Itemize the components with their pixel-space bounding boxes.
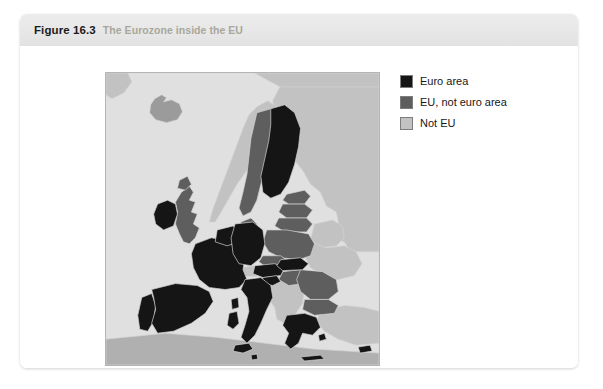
region-ireland	[154, 200, 178, 230]
figure-header: Figure 16.3 The Eurozone inside the EU	[20, 14, 578, 46]
legend-item-not-eu: Not EU	[400, 116, 565, 131]
legend-label-eu-not-euro: EU, not euro area	[420, 96, 507, 109]
map-legend: Euro area EU, not euro area Not EU	[400, 74, 565, 137]
legend-swatch-eu-not-euro	[400, 96, 413, 109]
legend-label-euro-area: Euro area	[420, 75, 468, 88]
legend-item-euro-area: Euro area	[400, 74, 565, 89]
region-malta	[251, 354, 258, 360]
region-latvia	[279, 204, 313, 218]
legend-swatch-euro-area	[400, 75, 413, 88]
europe-map-svg	[106, 73, 379, 365]
region-corsica	[231, 297, 239, 309]
figure-caption: The Eurozone inside the EU	[103, 24, 243, 36]
legend-item-eu-not-euro: EU, not euro area	[400, 95, 565, 110]
legend-label-not-eu: Not EU	[420, 117, 455, 130]
legend-swatch-not-eu	[400, 117, 413, 130]
figure-card: Figure 16.3 The Eurozone inside the EU	[20, 14, 578, 368]
figure-body: Euro area EU, not euro area Not EU	[20, 46, 578, 368]
figure-number: Figure 16.3	[34, 24, 96, 36]
europe-map	[105, 72, 380, 366]
screenshot-root: Figure 16.3 The Eurozone inside the EU	[0, 0, 603, 389]
